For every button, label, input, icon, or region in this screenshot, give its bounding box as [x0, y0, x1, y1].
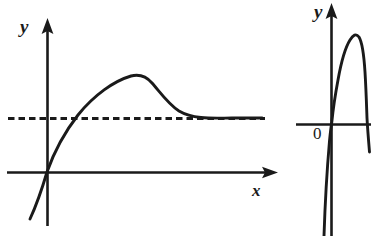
right-y-axis-label: y — [314, 2, 322, 21]
left-graph — [7, 18, 278, 226]
right-graph — [296, 3, 371, 236]
left-curve — [30, 75, 262, 219]
left-x-axis-label: x — [252, 182, 261, 199]
figure-root: y x y 0 — [0, 0, 371, 236]
left-y-axis — [42, 18, 54, 226]
graphs-canvas — [0, 0, 371, 236]
left-y-axis-label: y — [20, 17, 28, 36]
right-origin-label: 0 — [313, 125, 322, 142]
